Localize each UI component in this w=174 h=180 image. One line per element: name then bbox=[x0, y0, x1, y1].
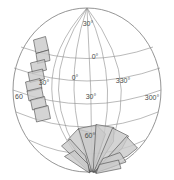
latitude-label: 30° bbox=[83, 20, 94, 27]
longitude-label: 0° bbox=[72, 74, 79, 81]
latitude-label: 60 bbox=[15, 93, 23, 100]
longitude-label: 30° bbox=[39, 79, 50, 86]
latitude-label: 0° bbox=[92, 53, 99, 60]
longitude-label: 330° bbox=[116, 77, 131, 84]
latitude-label: 30° bbox=[86, 93, 97, 100]
longitude-label: 300° bbox=[145, 94, 160, 101]
globe-figure: 30°0°30°60°600°330°300°30° bbox=[0, 0, 174, 180]
globe-canvas: 30°0°30°60°600°330°300°30° bbox=[0, 0, 174, 180]
latitude-label: 60° bbox=[85, 132, 96, 139]
